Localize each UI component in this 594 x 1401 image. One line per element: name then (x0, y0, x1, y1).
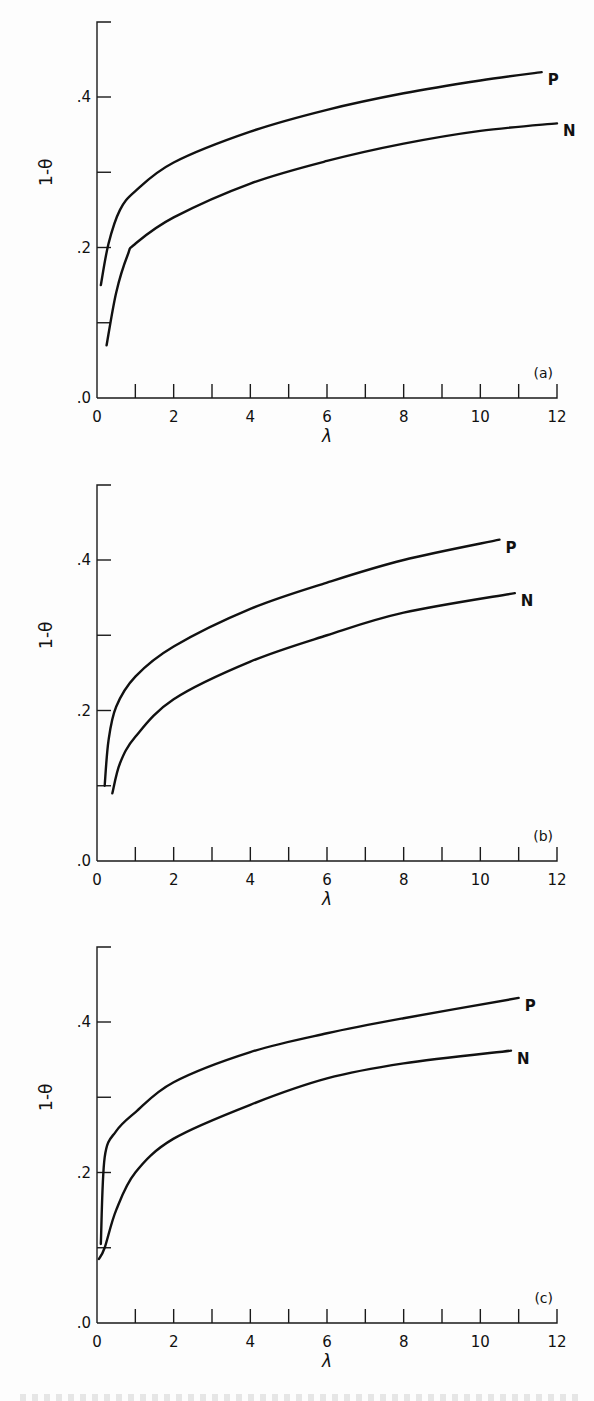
series-label-p: P (506, 539, 517, 557)
x-tick-label: 6 (322, 408, 332, 426)
line-chart-c: .0.2.4024681012λ1-θ(c)PN (0, 925, 594, 1385)
clipped-caption (20, 1394, 580, 1401)
x-tick-label: 2 (169, 871, 179, 889)
chart-panel-a: .0.2.4024681012λ1-θ(a)PN (0, 0, 594, 460)
x-tick-label: 0 (92, 408, 102, 426)
x-tick-label: 12 (547, 1333, 566, 1351)
y-tick-label: .2 (77, 239, 91, 257)
y-tick-label: .4 (77, 551, 91, 569)
series-label-n: N (563, 122, 576, 140)
series-line-p (101, 72, 542, 285)
x-tick-label: 8 (399, 1333, 409, 1351)
x-axis-title: λ (321, 1351, 332, 1371)
x-tick-label: 4 (246, 1333, 256, 1351)
chart-panel-c: .0.2.4024681012λ1-θ(c)PN (0, 925, 594, 1385)
series-line-n (99, 1051, 511, 1259)
x-tick-label: 4 (246, 871, 256, 889)
line-chart-b: .0.2.4024681012λ1-θ(b)PN (0, 463, 594, 923)
series-label-p: P (548, 71, 559, 89)
panel-label: (b) (533, 828, 553, 844)
x-tick-label: 4 (246, 408, 256, 426)
x-tick-label: 12 (547, 408, 566, 426)
series-label-p: P (525, 997, 536, 1015)
x-axis-title: λ (321, 889, 332, 909)
y-axis (97, 947, 111, 1323)
x-tick-label: 2 (169, 1333, 179, 1351)
series-line-n (112, 593, 514, 793)
x-tick-label: 0 (92, 871, 102, 889)
y-tick-label: .0 (77, 852, 91, 870)
y-tick-label: .2 (77, 702, 91, 720)
x-tick-label: 0 (92, 1333, 102, 1351)
y-tick-label: .4 (77, 88, 91, 106)
x-axis-title: λ (321, 426, 332, 446)
y-axis (97, 22, 111, 398)
series-line-n (107, 123, 557, 345)
y-tick-label: .2 (77, 1164, 91, 1182)
series-label-n: N (517, 1050, 530, 1068)
chart-panel-b: .0.2.4024681012λ1-θ(b)PN (0, 463, 594, 923)
y-tick-label: .0 (77, 389, 91, 407)
x-tick-label: 6 (322, 1333, 332, 1351)
series-line-p (105, 540, 500, 786)
x-tick-label: 2 (169, 408, 179, 426)
series-label-n: N (521, 592, 534, 610)
x-tick-label: 10 (471, 1333, 490, 1351)
y-axis-title: 1-θ (36, 1084, 56, 1111)
x-tick-label: 8 (399, 871, 409, 889)
series-line-p (101, 998, 519, 1244)
panel-label: (a) (533, 365, 553, 381)
x-tick-label: 8 (399, 408, 409, 426)
y-axis-title: 1-θ (36, 159, 56, 186)
y-axis (97, 485, 111, 861)
x-tick-label: 12 (547, 871, 566, 889)
x-tick-label: 10 (471, 408, 490, 426)
line-chart-a: .0.2.4024681012λ1-θ(a)PN (0, 0, 594, 460)
y-tick-label: .4 (77, 1013, 91, 1031)
y-tick-label: .0 (77, 1314, 91, 1332)
x-tick-label: 6 (322, 871, 332, 889)
y-axis-title: 1-θ (36, 622, 56, 649)
x-tick-label: 10 (471, 871, 490, 889)
panel-label: (c) (534, 1290, 553, 1306)
